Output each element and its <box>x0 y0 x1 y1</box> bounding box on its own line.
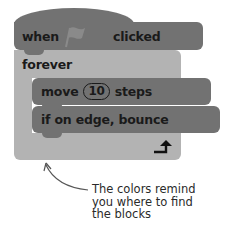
caption-line: The colors remind <box>92 183 232 196</box>
bounce-notch <box>42 133 62 138</box>
hat-notch <box>24 50 44 55</box>
caption-line: the blocks <box>92 208 232 221</box>
move-notch <box>42 105 62 110</box>
caption: The colors remind you where to find the … <box>92 183 232 221</box>
